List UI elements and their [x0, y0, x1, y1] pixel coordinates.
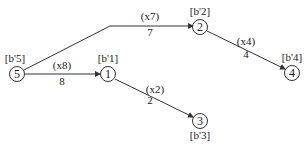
edge-2-4: (x4) 4: [207, 31, 285, 69]
edge-1-3-cost: 2: [147, 94, 153, 106]
node-2: 2 [b'2]: [190, 5, 210, 35]
node-2-label: 2: [197, 20, 203, 34]
edge-1-3: (x2) 2: [115, 79, 193, 117]
node-4-supply: [b'4]: [282, 51, 302, 63]
node-3: 3 [b'3]: [190, 114, 210, 142]
node-5-supply: [b'5]: [5, 52, 25, 64]
node-4: 4 [b'4]: [282, 51, 302, 81]
edge-5-2-variable: (x7): [141, 10, 160, 23]
node-5: 5 [b'5]: [5, 52, 25, 82]
node-5-label: 5: [14, 67, 20, 81]
edge-5-1-cost: 8: [59, 75, 65, 87]
node-4-label: 4: [289, 66, 295, 80]
node-3-supply: [b'3]: [190, 129, 210, 141]
edge-2-4-variable: (x4): [237, 35, 256, 48]
edge-5-2-cost: 7: [147, 26, 153, 38]
network-diagram: (x7) 7 (x8) 8 (x2) 2 (x4) 4 5 [b'5] 1 [b…: [0, 0, 307, 146]
edge-5-1-variable: (x8): [53, 59, 72, 72]
node-1-label: 1: [105, 67, 111, 81]
node-3-label: 3: [197, 114, 203, 128]
node-1: 1 [b'1]: [98, 52, 118, 82]
node-1-supply: [b'1]: [98, 52, 118, 64]
node-2-supply: [b'2]: [190, 5, 210, 17]
edge-2-4-cost: 4: [243, 48, 249, 60]
